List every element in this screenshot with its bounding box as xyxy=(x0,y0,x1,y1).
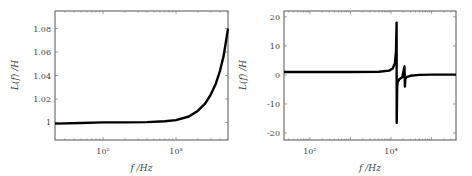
chart-left: 10²10³11.021.041.061.08f /HzL(f) /H xyxy=(10,11,228,173)
y-tick-label: 1.06 xyxy=(33,48,51,57)
y-tick-label: 1.08 xyxy=(33,25,51,34)
chart-right: 10²10⁴-20-1001020f /HzL(f) /H xyxy=(238,11,456,173)
y-tick-label: 1.02 xyxy=(33,95,51,104)
x-axis-label: f /Hz xyxy=(130,163,153,173)
y-tick-label: 1 xyxy=(46,118,51,127)
y-axis-label: L(f) /H xyxy=(10,60,20,91)
y-tick-label: 1.04 xyxy=(33,72,51,81)
x-tick-label: 10² xyxy=(96,147,109,156)
figure: 10²10³11.021.041.061.08f /HzL(f) /H 10²1… xyxy=(0,0,472,176)
data-line xyxy=(284,23,456,123)
x-axis-label: f /Hz xyxy=(358,163,381,173)
y-tick-label: 10 xyxy=(270,42,280,51)
axes-frame xyxy=(55,11,228,140)
y-tick-label: 0 xyxy=(275,71,280,80)
x-tick-label: 10³ xyxy=(169,147,182,156)
x-tick-label: 10⁴ xyxy=(384,147,397,156)
y-axis-label: L(f) /H xyxy=(238,60,248,91)
x-tick-label: 10² xyxy=(303,147,316,156)
data-line xyxy=(55,29,228,124)
y-tick-label: 20 xyxy=(270,13,280,22)
y-tick-label: -20 xyxy=(267,129,280,138)
y-tick-label: -10 xyxy=(267,100,280,109)
